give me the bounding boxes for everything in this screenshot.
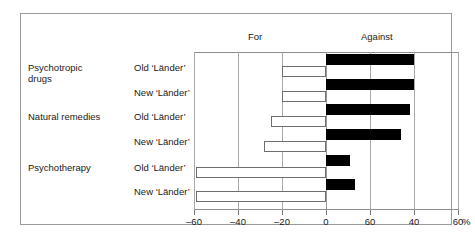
x-axis-ticks: –60–40–200604060: [194, 210, 458, 236]
bar-for-row-2: [271, 116, 326, 127]
x-tick-5: [414, 210, 415, 215]
x-tick-label-1: –40: [230, 216, 246, 227]
column-header-against: Against: [361, 31, 393, 42]
x-tick-6: [458, 210, 459, 215]
gridline-neg40: [238, 52, 239, 210]
bar-against-row-4: [326, 155, 350, 166]
subcategory-label-3: New ‘Länder’: [134, 136, 190, 147]
bar-for-row-4: [196, 167, 326, 178]
x-tick-2: [282, 210, 283, 215]
x-axis-unit-label: %: [462, 216, 470, 227]
x-tick-label-5: 40: [409, 216, 420, 227]
subcategory-label-0: Old ‘Länder’: [134, 62, 186, 73]
subcategory-label-2: Old ‘Länder’: [134, 111, 186, 122]
category-label-2: Psychotherapy: [28, 162, 133, 173]
bar-for-row-5: [196, 191, 326, 202]
subcategory-label-4: Old ‘Länder’: [134, 162, 186, 173]
plot-area: [194, 52, 458, 210]
gridline-60: [458, 52, 459, 210]
x-tick-label-4: 60: [365, 216, 376, 227]
subcategory-label-5: New ‘Länder’: [134, 186, 190, 197]
bar-against-row-5: [326, 179, 355, 190]
bar-against-row-2: [326, 104, 410, 115]
x-tick-label-3: 0: [323, 216, 328, 227]
bar-against-row-1: [326, 79, 414, 90]
bar-against-row-0: [326, 54, 414, 65]
chart-frame: For Against Psychotropic drugsNatural re…: [20, 13, 452, 225]
subcategory-label-1: New ‘Länder’: [134, 87, 190, 98]
x-tick-0: [194, 210, 195, 215]
bar-against-row-3: [326, 129, 401, 140]
category-label-1: Natural remedies: [28, 111, 133, 122]
x-tick-3: [326, 210, 327, 215]
category-label-0: Psychotropic drugs: [28, 62, 133, 84]
gridline-40: [414, 52, 415, 210]
x-tick-4: [370, 210, 371, 215]
bar-for-row-0: [282, 66, 326, 77]
x-tick-1: [238, 210, 239, 215]
column-header-for: For: [248, 31, 262, 42]
bar-for-row-1: [282, 91, 326, 102]
x-tick-label-0: –60: [186, 216, 202, 227]
bar-for-row-3: [264, 141, 326, 152]
gridline-neg60: [194, 52, 195, 210]
x-tick-label-2: –20: [274, 216, 290, 227]
